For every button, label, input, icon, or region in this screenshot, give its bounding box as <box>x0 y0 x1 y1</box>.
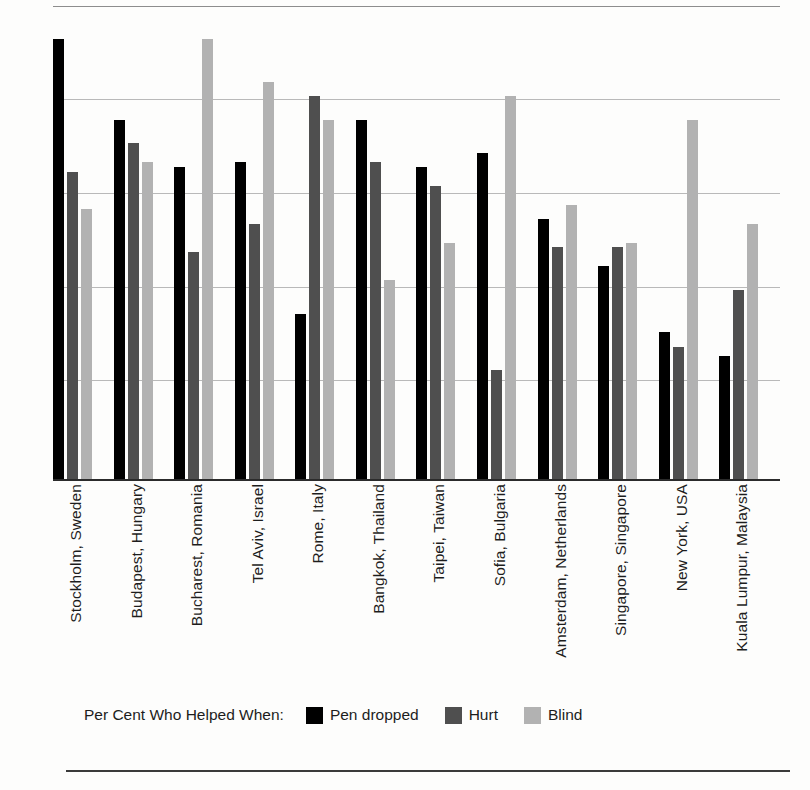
category-cell: Bucharest, Romania <box>174 484 235 684</box>
bar-1 <box>733 290 744 479</box>
bar-group <box>295 6 356 479</box>
category-cell: Stockholm, Sweden <box>53 484 114 684</box>
bar-0 <box>477 153 488 479</box>
bar-2 <box>687 120 698 480</box>
bar-2 <box>202 39 213 479</box>
x-axis-line <box>53 479 780 481</box>
bar-1 <box>673 347 684 479</box>
bar-2 <box>323 120 334 480</box>
bar-2 <box>747 224 758 479</box>
bar-2 <box>566 205 577 479</box>
bar-1 <box>188 252 199 479</box>
bar-group <box>356 6 417 479</box>
category-label: Taipei, Taiwan <box>430 484 448 582</box>
category-label: Tel Aviv, Israel <box>249 484 267 583</box>
category-cell: Bangkok, Thailand <box>356 484 417 684</box>
legend-item-label: Blind <box>548 706 582 724</box>
bar-1 <box>309 96 320 479</box>
bar-2 <box>444 243 455 480</box>
legend-item: Blind <box>524 706 582 724</box>
bar-2 <box>142 162 153 479</box>
bar-group <box>659 6 720 479</box>
bar-0 <box>53 39 64 479</box>
bar-group <box>719 6 780 479</box>
category-label: Sofia, Bulgaria <box>491 484 509 586</box>
category-label: Singapore, Singapore <box>612 484 630 636</box>
bar-0 <box>416 167 427 479</box>
category-label: New York, USA <box>673 484 691 591</box>
legend-item-label: Hurt <box>469 706 498 724</box>
legend-item-label: Pen dropped <box>330 706 419 724</box>
bar-0 <box>719 356 730 479</box>
category-label: Kuala Lumpur, Malaysia <box>733 484 751 652</box>
category-cell: Amsterdam, Netherlands <box>538 484 599 684</box>
bar-group <box>235 6 296 479</box>
category-cell: Sofia, Bulgaria <box>477 484 538 684</box>
legend-item: Pen dropped <box>306 706 419 724</box>
plot-area <box>53 6 780 479</box>
bar-0 <box>174 167 185 479</box>
chart-legend: Per Cent Who Helped When: Pen droppedHur… <box>84 706 608 724</box>
category-cell: Singapore, Singapore <box>598 484 659 684</box>
bar-0 <box>598 266 609 479</box>
bar-1 <box>552 247 563 479</box>
bar-2 <box>505 96 516 479</box>
category-cell: Kuala Lumpur, Malaysia <box>719 484 780 684</box>
category-label: Budapest, Hungary <box>128 484 146 618</box>
bar-1 <box>249 224 260 479</box>
category-axis-labels: Stockholm, SwedenBudapest, HungaryBuchar… <box>53 484 780 684</box>
bar-group <box>538 6 599 479</box>
bar-groups <box>53 6 780 479</box>
bar-1 <box>491 370 502 479</box>
category-cell: Budapest, Hungary <box>114 484 175 684</box>
bar-group <box>416 6 477 479</box>
legend-title: Per Cent Who Helped When: <box>84 706 284 724</box>
category-label: Rome, Italy <box>309 484 327 564</box>
category-cell: Tel Aviv, Israel <box>235 484 296 684</box>
bar-group <box>477 6 538 479</box>
legend-item: Hurt <box>445 706 498 724</box>
category-cell: Taipei, Taiwan <box>416 484 477 684</box>
footer-rule <box>66 770 790 772</box>
bar-group <box>114 6 175 479</box>
bar-1 <box>128 143 139 479</box>
bar-0 <box>538 219 549 479</box>
bar-2 <box>263 82 274 479</box>
bar-1 <box>370 162 381 479</box>
bar-0 <box>356 120 367 480</box>
bar-group <box>598 6 659 479</box>
bar-group <box>53 6 114 479</box>
category-label: Bangkok, Thailand <box>370 484 388 614</box>
category-label: Amsterdam, Netherlands <box>552 484 570 658</box>
bar-1 <box>67 172 78 479</box>
legend-swatch-icon <box>306 707 323 724</box>
category-label: Bucharest, Romania <box>188 484 206 626</box>
bar-0 <box>659 332 670 479</box>
category-cell: New York, USA <box>659 484 720 684</box>
legend-swatch-icon <box>524 707 541 724</box>
bar-1 <box>430 186 441 479</box>
bar-1 <box>612 247 623 479</box>
bar-group <box>174 6 235 479</box>
bar-0 <box>114 120 125 480</box>
bar-2 <box>384 280 395 479</box>
chart-page: Stockholm, SwedenBudapest, HungaryBuchar… <box>0 0 810 790</box>
category-label: Stockholm, Sweden <box>67 484 85 623</box>
category-cell: Rome, Italy <box>295 484 356 684</box>
legend-swatch-icon <box>445 707 462 724</box>
bar-0 <box>235 162 246 479</box>
bar-2 <box>81 209 92 479</box>
bar-2 <box>626 243 637 480</box>
bar-0 <box>295 314 306 480</box>
